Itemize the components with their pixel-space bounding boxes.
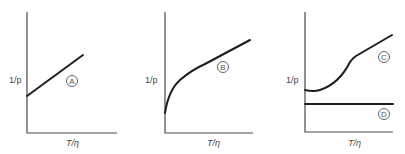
panel-c-ylabel: 1/p	[286, 75, 299, 85]
panel-c-xlabel: T/η	[348, 138, 361, 148]
figure: A 1/p T/η B 1/p T/η C D 1/p T/η	[0, 0, 405, 154]
panel-a-xlabel: T/η	[66, 138, 79, 148]
curve-a	[27, 55, 83, 96]
panel-b-ylabel: 1/p	[145, 75, 158, 85]
panel-b-axes	[165, 12, 253, 133]
curve-a-label: A	[69, 77, 75, 86]
curve-b	[165, 40, 250, 113]
panel-a-axes	[27, 12, 117, 133]
curve-d-label: D	[381, 110, 387, 119]
panel-a: A 1/p T/η	[9, 12, 117, 148]
panel-c: C D 1/p T/η	[286, 12, 393, 148]
panel-b: B 1/p T/η	[145, 12, 253, 148]
panel-c-axes	[305, 12, 393, 132]
panel-a-ylabel: 1/p	[9, 75, 22, 85]
curve-b-label: B	[220, 63, 225, 72]
curve-c-label: C	[381, 53, 387, 62]
curve-c	[305, 35, 392, 91]
panel-b-xlabel: T/η	[207, 138, 220, 148]
